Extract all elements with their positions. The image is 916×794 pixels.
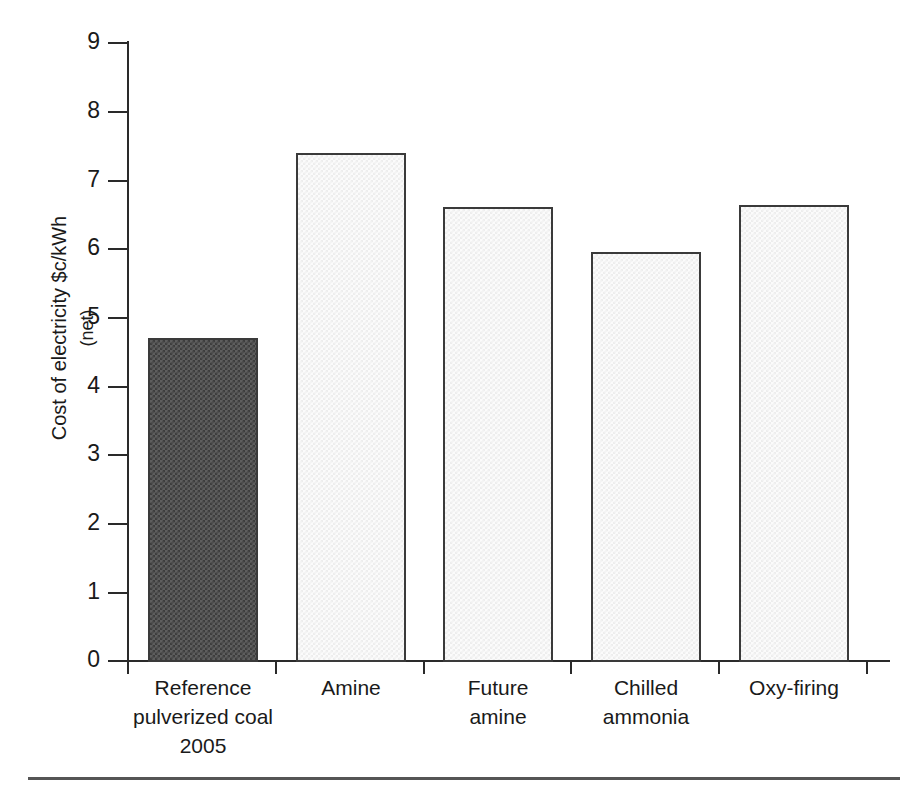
x-category-label-chilled-ammonia-line2: ammonia bbox=[556, 702, 736, 731]
y-tick-label-1: 1 bbox=[60, 580, 100, 603]
y-tick-7 bbox=[108, 180, 127, 182]
y-tick-label-5: 5 bbox=[60, 305, 100, 328]
x-tick-2 bbox=[423, 660, 425, 674]
bottom-divider-rule bbox=[28, 777, 900, 780]
y-tick-8 bbox=[108, 111, 127, 113]
y-tick-label-8: 8 bbox=[60, 99, 100, 122]
y-tick-4 bbox=[108, 386, 127, 388]
bar-future-amine bbox=[443, 207, 553, 662]
y-tick-label-0: 0 bbox=[60, 648, 100, 671]
x-tick-3 bbox=[570, 660, 572, 674]
y-tick-5 bbox=[108, 317, 127, 319]
y-tick-label-7: 7 bbox=[60, 168, 100, 191]
x-tick-0 bbox=[127, 660, 129, 674]
y-tick-label-9: 9 bbox=[60, 30, 100, 53]
y-tick-label-4: 4 bbox=[60, 374, 100, 397]
y-tick-1 bbox=[108, 592, 127, 594]
x-category-label-reference-line3: 2005 bbox=[113, 731, 293, 760]
x-tick-1 bbox=[275, 660, 277, 674]
y-tick-label-6: 6 bbox=[60, 236, 100, 259]
x-tick-4 bbox=[718, 660, 720, 674]
y-tick-2 bbox=[108, 523, 127, 525]
bar-amine bbox=[296, 153, 406, 662]
y-tick-9 bbox=[108, 42, 127, 44]
x-category-label-oxy-firing-line1: Oxy-firing bbox=[704, 673, 884, 702]
bar-oxy-firing bbox=[739, 205, 849, 662]
bar-chart-figure: Cost of electricity $c/kWh (net) 9 8 7 6… bbox=[0, 0, 916, 794]
bar-chilled-ammonia bbox=[591, 252, 701, 662]
x-category-label-reference-line2: pulverized coal bbox=[113, 702, 293, 731]
y-tick-label-2: 2 bbox=[60, 511, 100, 534]
bar-reference-pulverized-coal-2005 bbox=[148, 338, 258, 662]
x-category-label-oxy-firing: Oxy-firing bbox=[704, 673, 884, 702]
y-tick-6 bbox=[108, 248, 127, 250]
x-tick-5 bbox=[866, 660, 868, 674]
y-axis-spine bbox=[127, 41, 129, 662]
y-tick-3 bbox=[108, 454, 127, 456]
y-tick-label-3: 3 bbox=[60, 442, 100, 465]
